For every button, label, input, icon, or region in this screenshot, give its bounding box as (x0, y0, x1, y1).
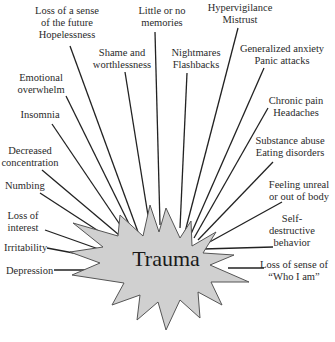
center-label-trauma: Trauma (132, 246, 200, 272)
symptom-label-line: Little or no (138, 5, 185, 17)
symptom-label-line: Loss of a sense (35, 5, 99, 17)
symptom-label-line: or out of body (269, 191, 329, 203)
symptom-label-line: Substance abuse (255, 135, 324, 147)
symptom-label-unreal: Feeling unrealor out of body (269, 179, 329, 203)
connector-line-nightmares (180, 73, 187, 228)
symptom-label-line: Insomnia (20, 109, 59, 121)
symptom-label-line: concentration (1, 157, 58, 169)
symptom-label-line: Self- (269, 213, 315, 225)
symptom-label-line: “Who I am” (260, 271, 328, 283)
symptom-label-line: Numbing (5, 180, 45, 192)
symptom-label-line: Flashbacks (172, 59, 221, 71)
symptom-label-line: worthlessness (93, 59, 151, 71)
symptom-label-line: Irritability (4, 242, 47, 254)
connector-line-emotional (66, 96, 135, 236)
symptom-label-line: behavior (269, 237, 315, 249)
symptom-label-line: Depression (6, 265, 53, 277)
symptom-label-line: destructive (269, 225, 315, 237)
symptom-label-hypervigilance: HypervigilanceMistrust (208, 2, 273, 26)
symptom-label-line: overwhelm (17, 84, 64, 96)
connector-line-selfdestructive (203, 247, 273, 249)
symptom-label-depression: Depression (6, 265, 53, 277)
symptom-label-line: Chronic pain (269, 95, 324, 107)
symptom-label-anxiety: Generalized anxietyPanic attacks (240, 43, 324, 67)
symptom-label-line: of the future (35, 17, 99, 29)
symptom-label-line: interest (7, 222, 38, 234)
symptom-label-line: Generalized anxiety (240, 43, 324, 55)
symptom-label-line: Feeling unreal (269, 179, 329, 191)
symptom-label-nightmares: NightmaresFlashbacks (172, 47, 221, 71)
symptom-label-line: Nightmares (172, 47, 221, 59)
symptom-label-memories: Little or nomemories (138, 5, 185, 29)
symptom-label-irritability: Irritability (4, 242, 47, 254)
symptom-label-concentration: Decreasedconcentration (1, 145, 58, 169)
symptom-label-line: Loss of (7, 210, 38, 222)
connector-line-chronic (194, 108, 268, 238)
symptom-label-chronic: Chronic painHeadaches (269, 95, 324, 119)
symptom-label-line: Eating disorders (255, 147, 324, 159)
symptom-label-selfdestructive: Self-destructivebehavior (269, 213, 315, 249)
symptom-label-line: Mistrust (208, 14, 273, 26)
symptom-label-line: Emotional (17, 72, 64, 84)
connector-line-shame (125, 72, 150, 228)
symptom-label-line: Shame and (93, 47, 151, 59)
symptom-label-line: Hypervigilance (208, 2, 273, 14)
connector-line-future (70, 46, 138, 232)
symptom-label-numbing: Numbing (5, 180, 45, 192)
symptom-label-substance: Substance abuseEating disorders (255, 135, 324, 159)
symptom-label-line: Decreased (1, 145, 58, 157)
symptom-label-shame: Shame andworthlessness (93, 47, 151, 71)
symptom-label-whoiam: Loss of sense of“Who I am” (260, 259, 328, 283)
symptom-label-line: Hopelessness (35, 29, 99, 41)
symptom-label-future: Loss of a senseof the futureHopelessness (35, 5, 99, 41)
symptom-label-line: Panic attacks (240, 55, 324, 67)
symptom-label-interest: Loss ofinterest (7, 210, 38, 234)
symptom-label-insomnia: Insomnia (20, 109, 59, 121)
connector-line-memories (155, 32, 160, 225)
symptom-label-line: memories (138, 17, 185, 29)
symptom-label-emotional: Emotionaloverwhelm (17, 72, 64, 96)
symptom-label-line: Loss of sense of (260, 259, 328, 271)
symptom-label-line: Headaches (269, 107, 324, 119)
connector-line-insomnia (52, 124, 129, 238)
